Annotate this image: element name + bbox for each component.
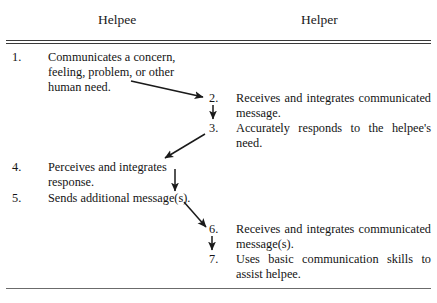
step-item-3: 3. Accurately responds to the helpee's n… xyxy=(209,121,431,151)
step-number-2: 2. xyxy=(209,91,229,106)
step-text-5: Sends additional mes­sage(s). xyxy=(48,191,202,206)
step-text-1: Communicates a concern, feeling, problem… xyxy=(48,50,202,96)
step-number-4: 4. xyxy=(12,160,34,175)
column-header-helpee: Helpee xyxy=(98,12,136,28)
step-item-2: 2. Receives and integrates communicated … xyxy=(209,91,431,121)
step-number-1: 1. xyxy=(12,50,34,65)
step-number-5: 5. xyxy=(12,191,34,206)
arrow-step-3-to-4 xyxy=(165,134,205,158)
step-item-4: 4. Perceives and integrates response. xyxy=(12,160,202,190)
column-header-helper: Helper xyxy=(301,12,338,28)
column-header-row: Helpee Helper xyxy=(0,12,437,34)
step-number-6: 6. xyxy=(209,222,229,237)
step-text-4: Perceives and integrates response. xyxy=(48,160,202,190)
step-text-3: Accurately responds to the helpee's need… xyxy=(236,121,431,151)
bottom-rule xyxy=(6,288,431,289)
step-text-2: Receives and integrates communicated mes… xyxy=(236,91,431,121)
step-number-3: 3. xyxy=(209,121,229,136)
step-item-7: 7. Uses basic communication skills to as… xyxy=(209,252,431,282)
step-number-7: 7. xyxy=(209,252,229,267)
step-item-1: 1. Communicates a concern, feeling, prob… xyxy=(12,50,202,96)
step-text-6: Receives and integrates communicated mes… xyxy=(236,222,431,252)
step-item-6: 6. Receives and integrates communicated … xyxy=(209,222,431,252)
step-item-5: 5. Sends additional mes­sage(s). xyxy=(12,191,202,206)
flow-diagram-page: Helpee Helper 1. Communicates a concern,… xyxy=(0,0,437,303)
step-text-7: Uses basic communication skills to assis… xyxy=(236,252,431,282)
header-double-rule xyxy=(6,40,431,44)
